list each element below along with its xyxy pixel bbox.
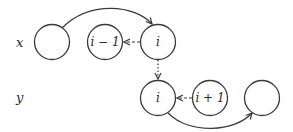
node-y-i: i: [141, 81, 176, 116]
row-label-y: y: [15, 90, 24, 105]
linked-nodes-diagram: x y i − 1 i i i + 1: [0, 0, 293, 132]
node-label: i + 1: [195, 91, 224, 105]
node-label: i − 1: [90, 35, 119, 49]
node-y-last: [245, 81, 280, 116]
node-x0: [35, 25, 70, 60]
node-label: i: [156, 91, 160, 105]
node-x-i-minus-1: i − 1: [88, 25, 123, 60]
node-x-i: i: [141, 25, 176, 60]
row-label-x: x: [16, 35, 24, 50]
node-label: i: [156, 35, 160, 49]
node-y-i-plus-1: i + 1: [193, 81, 228, 116]
